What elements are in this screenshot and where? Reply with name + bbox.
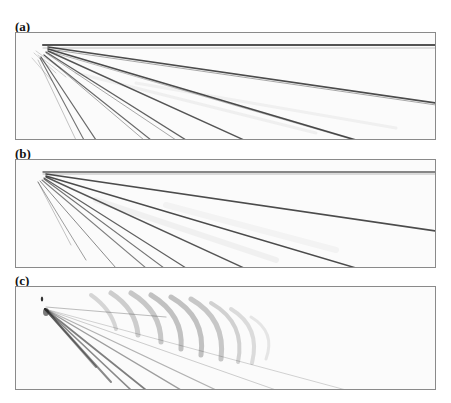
panel-b [15, 159, 436, 268]
panel-c-wavefield [16, 287, 436, 390]
panel-b-wavefield [16, 160, 436, 268]
clipped-figure-caption [0, 0, 451, 6]
panel-a-wavefield [16, 33, 436, 140]
panel-c [15, 286, 436, 390]
panel-a [15, 32, 436, 140]
